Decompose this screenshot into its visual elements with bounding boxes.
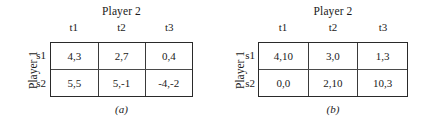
column-player-label-b: Player 2: [258, 5, 408, 18]
table-row: 4,10 3,0 1,3: [259, 43, 407, 70]
table-row: 4,3 2,7 0,4: [51, 43, 192, 70]
payoff-matrix-b: 4,10 3,0 1,3 0,0 2,10 10,3: [258, 42, 408, 97]
table-row: 0,0 2,10 10,3: [259, 70, 407, 97]
row-header-s2-b: s2: [239, 70, 257, 98]
row-header-s2-a: s2: [30, 70, 48, 98]
panel-caption-b: (b): [258, 103, 408, 116]
payoff-cell-s2-t1-a: 5,5: [51, 70, 98, 97]
row-header-s1-b: s1: [239, 42, 257, 70]
payoff-cell-s2-t3-a: -4,-2: [145, 70, 192, 97]
payoff-matrix-panel-b: Player 2 t1 t2 t3 Player 1 s1 s2 4,10 3,…: [211, 0, 422, 128]
table-row: 5,5 5,-1 -4,-2: [51, 70, 192, 97]
payoff-cell-s1-t1-b: 4,10: [259, 43, 308, 70]
payoff-cell-s1-t3-b: 1,3: [358, 43, 407, 70]
payoff-matrix-a: 4,3 2,7 0,4 5,5 5,-1 -4,-2: [50, 42, 193, 97]
column-header-t1-b: t1: [258, 21, 308, 34]
payoff-cell-s1-t2-a: 2,7: [98, 43, 145, 70]
column-header-t2-a: t2: [98, 21, 146, 34]
row-headers-a: s1 s2: [30, 42, 48, 97]
payoff-cell-s1-t3-a: 0,4: [145, 43, 192, 70]
column-headers-b: t1 t2 t3: [258, 21, 408, 34]
column-header-t3-a: t3: [145, 21, 193, 34]
game-theory-payoff-figure: Player 2 t1 t2 t3 Player 1 s1 s2 4,3 2,7…: [0, 0, 422, 128]
payoff-cell-s2-t3-b: 10,3: [358, 70, 407, 97]
payoff-cell-s2-t1-b: 0,0: [259, 70, 308, 97]
payoff-cell-s2-t2-a: 5,-1: [98, 70, 145, 97]
payoff-cell-s2-t2-b: 2,10: [308, 70, 357, 97]
row-headers-b: s1 s2: [239, 42, 257, 97]
row-header-s1-a: s1: [30, 42, 48, 70]
payoff-cell-s1-t2-b: 3,0: [308, 43, 357, 70]
panel-caption-a: (a): [50, 103, 193, 116]
column-player-label-a: Player 2: [50, 5, 193, 18]
column-header-t1-a: t1: [50, 21, 98, 34]
payoff-matrix-panel-a: Player 2 t1 t2 t3 Player 1 s1 s2 4,3 2,7…: [0, 0, 211, 128]
column-header-t2-b: t2: [308, 21, 358, 34]
column-header-t3-b: t3: [358, 21, 408, 34]
payoff-cell-s1-t1-a: 4,3: [51, 43, 98, 70]
column-headers-a: t1 t2 t3: [50, 21, 193, 34]
